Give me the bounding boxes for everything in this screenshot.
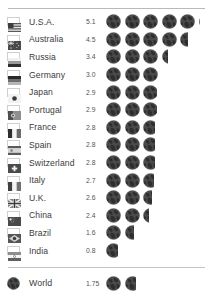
globe-icon: [106, 190, 121, 205]
globe-row: [106, 13, 211, 31]
globe-row: [106, 242, 211, 260]
country-globe-slot: [162, 14, 181, 29]
globe-icon: [180, 32, 188, 47]
country-globe-slot: [125, 120, 144, 135]
globe-icon: [125, 137, 140, 152]
globe-icon: [106, 208, 121, 223]
globe-icon: [143, 67, 158, 82]
country-value: 2.4: [86, 212, 106, 219]
country-globe-slot: [125, 85, 144, 100]
country-label: Brazil: [29, 228, 86, 238]
country-value: 2.6: [86, 194, 106, 201]
globe-icon: [143, 102, 157, 117]
world-value: 1.75: [86, 280, 106, 287]
country-label: Japan: [29, 87, 86, 97]
globe-row: [106, 83, 211, 101]
globe-icon: [125, 276, 136, 291]
world-summary-row: World1.75: [0, 274, 211, 292]
globe-icon: [106, 137, 121, 152]
country-globe-slot: [125, 208, 144, 223]
country-value: 2.8: [86, 159, 106, 166]
table-row: Brazil1.6: [0, 224, 211, 242]
country-globe-slot: [125, 102, 144, 117]
country-globe-slot: [143, 49, 162, 64]
country-globe-slot: [106, 32, 125, 47]
globe-row: [106, 31, 211, 49]
globe-icon: [106, 102, 121, 117]
globe-icon: [180, 14, 195, 29]
flag-france-icon: [7, 123, 29, 132]
country-globe-slot: [106, 14, 125, 29]
flag-brazil-icon: [7, 228, 29, 237]
country-value: 0.8: [86, 247, 106, 254]
world-row-inner: World1.75: [0, 274, 211, 292]
flag-uk-icon: [7, 193, 29, 202]
country-globe-slot: [106, 120, 125, 135]
flag-germany-icon: [7, 70, 29, 79]
country-globe-slot: [143, 190, 162, 205]
globe-row: [106, 154, 211, 172]
country-value: 4.5: [86, 36, 106, 43]
country-value: 2.9: [86, 89, 106, 96]
country-label: France: [29, 122, 86, 132]
globe-icon: [199, 14, 201, 29]
globe-row: [106, 274, 211, 292]
globe-icon: [106, 49, 121, 64]
globe-icon: [125, 155, 140, 170]
country-globe-slot: [125, 32, 144, 47]
country-label: China: [29, 210, 86, 220]
globe-icon: [143, 173, 154, 188]
globe-icon: [125, 67, 140, 82]
globe-row: [106, 66, 211, 84]
country-globe-slot: [143, 102, 162, 117]
country-globe-slot: [143, 173, 162, 188]
globe-icon: [106, 155, 121, 170]
country-globe-slot: [162, 49, 181, 64]
globe-icon: [125, 32, 140, 47]
globe-row: [106, 189, 211, 207]
globe-icon: [125, 208, 140, 223]
country-globe-slot: [106, 173, 125, 188]
country-value: 2.7: [86, 177, 106, 184]
flag-india-icon: [7, 246, 29, 255]
country-globe-slot: [125, 190, 144, 205]
country-globe-slot: [106, 243, 125, 258]
globe-icon: [106, 243, 118, 258]
country-globe-slot: [125, 49, 144, 64]
globe-icon: [106, 14, 121, 29]
country-globe-slot: [143, 137, 162, 152]
globe-row: [106, 136, 211, 154]
country-globe-slot: [106, 102, 125, 117]
globe-icon: [125, 85, 140, 100]
flag-italy-icon: [7, 176, 29, 185]
flag-china-icon: [7, 211, 29, 220]
country-globe-slot: [199, 14, 211, 29]
globe-row: [106, 101, 211, 119]
country-value: 2.8: [86, 124, 106, 131]
country-value: 3.0: [86, 71, 106, 78]
flag-portugal-icon: [7, 105, 29, 114]
table-row: China2.4: [0, 207, 211, 225]
globe-icon: [106, 85, 121, 100]
country-globe-slot: [106, 190, 125, 205]
table-row: U.K.2.6: [0, 189, 211, 207]
country-globe-slot: [143, 14, 162, 29]
flag-switzerland-icon: [7, 158, 29, 167]
globe-icon: [106, 276, 121, 291]
country-globe-slot: [125, 155, 144, 170]
country-value: 2.8: [86, 141, 106, 148]
flag-usa-icon: [7, 17, 29, 26]
country-label: Russia: [29, 52, 86, 62]
flag-japan-icon: [7, 88, 29, 97]
table-row: Germany3.0: [0, 66, 211, 84]
pictogram-chart: U.S.A.5.1Australia4.5Russia3.4Germany3.0…: [0, 0, 211, 296]
globe-row: [106, 224, 211, 242]
country-rows: U.S.A.5.1Australia4.5Russia3.4Germany3.0…: [0, 13, 211, 259]
globe-icon: [143, 32, 158, 47]
country-globe-slot: [125, 225, 144, 240]
globe-icon: [143, 137, 155, 152]
globe-icon: [125, 102, 140, 117]
globe-icon: [143, 49, 158, 64]
country-value: 3.4: [86, 53, 106, 60]
globe-icon: [125, 14, 140, 29]
